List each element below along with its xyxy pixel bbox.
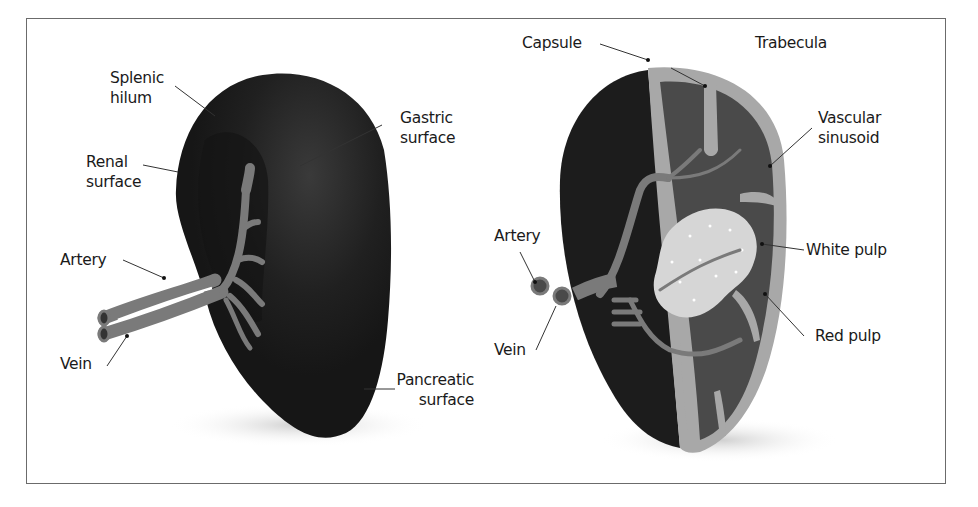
label-splenic-hilum: Splenic hilum bbox=[110, 68, 164, 108]
label-vein-left: Vein bbox=[60, 354, 92, 374]
label-gastric-surface: Gastric surface bbox=[400, 108, 455, 148]
label-renal-surface: Renal surface bbox=[86, 152, 141, 192]
label-artery-left: Artery bbox=[60, 250, 106, 270]
label-red-pulp: Red pulp bbox=[815, 326, 881, 346]
label-capsule: Capsule bbox=[522, 33, 582, 53]
label-pancreatic-surface: Pancreatic surface bbox=[378, 370, 474, 410]
label-trabecula: Trabecula bbox=[755, 33, 827, 53]
label-white-pulp: White pulp bbox=[806, 240, 887, 260]
cross-section-spleen bbox=[532, 67, 840, 462]
label-artery-right: Artery bbox=[494, 226, 540, 246]
label-vascular-sinusoid: Vascular sinusoid bbox=[818, 108, 881, 148]
label-vein-right: Vein bbox=[494, 340, 526, 360]
